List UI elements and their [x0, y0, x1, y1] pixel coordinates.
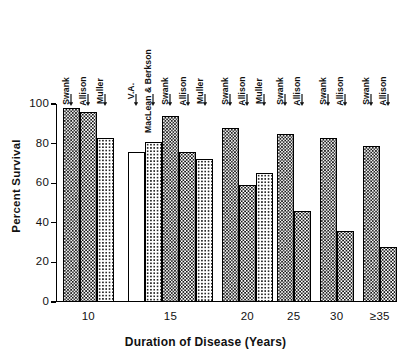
bar-annotation: Allison: [382, 92, 394, 104]
y-axis-tick-label: 40: [23, 217, 49, 228]
x-axis-title: Duration of Disease (Years): [0, 335, 411, 349]
y-axis-tick-label: 100: [23, 98, 49, 109]
bar: [239, 185, 256, 302]
bar: [363, 146, 380, 302]
bar-annotation: Muller: [258, 92, 270, 104]
down-arrow-icon: [166, 92, 175, 104]
bar: [97, 138, 114, 302]
y-axis-tick-label: 80: [23, 138, 49, 149]
bar: [80, 112, 97, 302]
bar: [222, 128, 239, 302]
x-axis-tick-label: ≥35: [343, 310, 411, 322]
down-arrow-icon: [298, 92, 307, 104]
down-arrow-icon: [200, 92, 209, 104]
bar: [63, 108, 80, 302]
down-arrow-icon: [243, 92, 252, 104]
down-arrow-icon: [67, 92, 76, 104]
bar-annotation: Swank: [322, 92, 334, 104]
down-arrow-icon: [281, 92, 290, 104]
down-arrow-icon: [324, 92, 333, 104]
bar: [256, 173, 273, 302]
bar-annotation: Swank: [65, 92, 77, 104]
down-arrow-icon: [132, 92, 141, 104]
bar: [320, 138, 337, 302]
down-arrow-icon: [226, 92, 235, 104]
bar: [337, 231, 354, 302]
bar: [380, 247, 397, 302]
bar: [145, 142, 162, 302]
y-axis-tick-label: 0: [23, 296, 49, 307]
y-axis-tick-label: 20: [23, 256, 49, 267]
bar: [277, 134, 294, 302]
survival-bar-chart: Percent Survival 020406080100 SwankAllis…: [0, 0, 411, 359]
down-arrow-icon: [260, 92, 269, 104]
down-arrow-icon: [84, 92, 93, 104]
bar-annotation: Allison: [339, 92, 351, 104]
bar-annotation: Swank: [365, 92, 377, 104]
bar-annotation: Allison: [182, 92, 194, 104]
bar-annotation: Allison: [82, 92, 94, 104]
bar-annotation: Allison: [241, 92, 253, 104]
bar-annotation: Muller: [199, 92, 211, 104]
bar-annotation: V.A.: [130, 92, 142, 104]
down-arrow-icon: [101, 92, 110, 104]
bar: [196, 159, 213, 302]
bar-annotation: Swank: [224, 92, 236, 104]
bar: [179, 152, 196, 302]
down-arrow-icon: [183, 92, 192, 104]
down-arrow-icon: [341, 92, 350, 104]
down-arrow-icon: [149, 92, 158, 104]
bar: [294, 211, 311, 302]
bar-annotation: Swank: [164, 92, 176, 104]
y-axis-tick-label: 60: [23, 177, 49, 188]
bar-annotation: MacLean & Berkson: [147, 92, 159, 104]
down-arrow-icon: [384, 92, 393, 104]
bar: [162, 116, 179, 302]
down-arrow-icon: [367, 92, 376, 104]
bar-annotation: Swank: [279, 92, 291, 104]
bar-annotation-label: MacLean & Berkson: [144, 49, 153, 133]
bar-annotation: Muller: [99, 92, 111, 104]
bar-annotation: Allison: [296, 92, 308, 104]
bar: [128, 152, 145, 302]
